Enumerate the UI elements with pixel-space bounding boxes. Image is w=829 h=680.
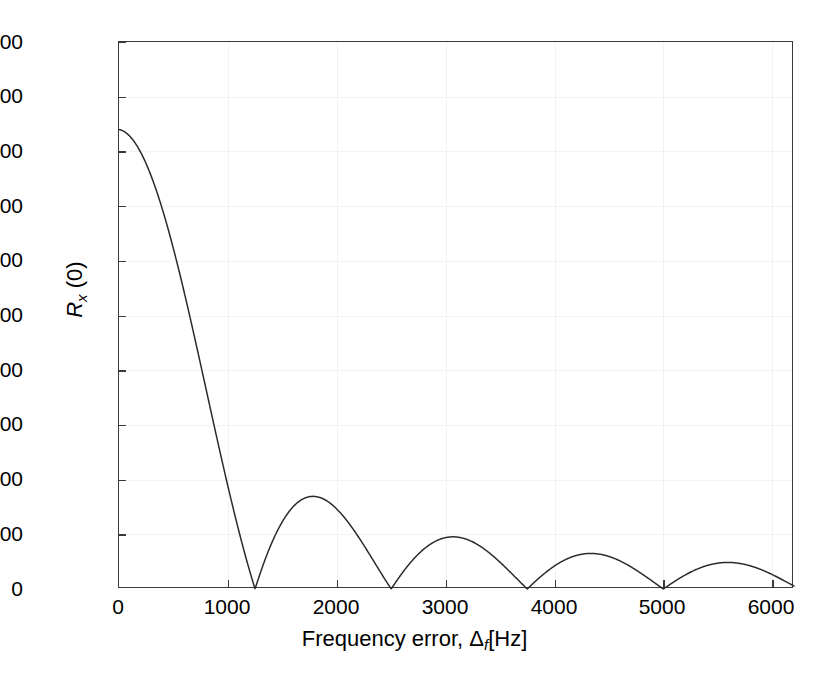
- xtick-label-6000: 6000: [731, 596, 811, 617]
- xtick-label-2000: 2000: [296, 596, 376, 617]
- xtick-label-3000: 3000: [405, 596, 485, 617]
- ytick-label-400: 400: [0, 359, 23, 380]
- x-axis-unit: [Hz]: [488, 626, 527, 651]
- xtick-label-1000: 1000: [187, 596, 267, 617]
- ytick-label-900: 900: [0, 85, 23, 106]
- ytick-label-500: 500: [0, 304, 23, 325]
- ytick-label-700: 700: [0, 195, 23, 216]
- xtick-label-0: 0: [88, 596, 148, 617]
- y-axis-label: Rx (0): [62, 230, 89, 350]
- ytick-label-800: 800: [0, 140, 23, 161]
- x-axis-delta-symbol: Δ: [469, 626, 484, 651]
- ytick-label-200: 200: [0, 468, 23, 489]
- x-axis-label: Frequency error, Δf[Hz]: [0, 626, 829, 653]
- x-axis-label-text: Frequency error,: [302, 626, 470, 651]
- ytick-label-0: 0: [11, 578, 23, 599]
- ytick-label-300: 300: [0, 413, 23, 434]
- ytick-label-1000: 1000: [0, 31, 23, 52]
- y-axis-label-subscript: x: [73, 294, 90, 301]
- ytick-label-100: 100: [0, 523, 23, 544]
- chart-figure: 1000 900 800 700 600 500 400 300 200 100…: [0, 0, 829, 680]
- xtick-label-5000: 5000: [622, 596, 702, 617]
- y-axis-label-symbol: R: [62, 302, 87, 318]
- ytick-label-600: 600: [0, 249, 23, 270]
- xtick-label-4000: 4000: [514, 596, 594, 617]
- y-axis-label-arg: (0): [62, 261, 87, 294]
- data-curve: [119, 42, 794, 589]
- plot-area: [118, 41, 793, 588]
